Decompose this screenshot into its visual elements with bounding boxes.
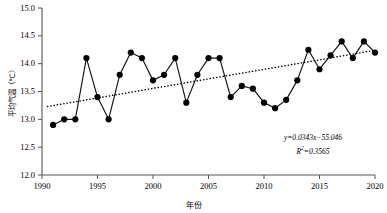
data-point-marker xyxy=(139,55,145,61)
data-point-marker xyxy=(72,116,78,122)
data-point-marker xyxy=(239,83,245,89)
data-point-marker xyxy=(128,49,134,55)
data-point-marker xyxy=(283,97,289,103)
data-point-marker xyxy=(217,55,223,61)
data-point-marker xyxy=(194,72,200,78)
data-point-marker xyxy=(272,105,278,111)
y-axis-title: 平均气温（℃） xyxy=(6,50,17,134)
trendline-equation-annotation: y=0.0343x−55.046 R2=0.3565 xyxy=(258,133,368,157)
data-point-marker xyxy=(183,100,189,106)
data-point-marker xyxy=(372,49,378,55)
x-axis-tick-label: 1990 xyxy=(22,182,62,191)
r-squared-text: R2=0.3565 xyxy=(258,143,368,157)
data-point-marker xyxy=(361,38,367,44)
temperature-trend-chart: 12.012.513.013.514.014.515.0 19901995200… xyxy=(0,0,387,213)
regression-equation-text: y=0.0343x−55.046 xyxy=(258,133,368,143)
x-axis-tick-label: 2010 xyxy=(244,182,284,191)
data-point-marker xyxy=(50,122,56,128)
data-point-marker xyxy=(350,55,356,61)
data-point-marker xyxy=(83,55,89,61)
data-point-marker xyxy=(305,47,311,53)
y-axis-tick-label: 12.0 xyxy=(0,171,35,180)
data-point-marker xyxy=(294,77,300,83)
data-point-marker xyxy=(339,38,345,44)
data-point-marker xyxy=(228,94,234,100)
data-point-marker xyxy=(94,94,100,100)
series-line xyxy=(53,41,375,125)
y-axis-tick-label: 14.5 xyxy=(0,31,35,40)
data-point-marker xyxy=(61,116,67,122)
data-point-marker xyxy=(328,52,334,58)
x-axis-tick-label: 2015 xyxy=(300,182,340,191)
y-axis-tick-label: 12.5 xyxy=(0,143,35,152)
data-point-marker xyxy=(205,55,211,61)
y-axis-tick-label: 15.0 xyxy=(0,4,35,13)
x-axis-tick-label: 2000 xyxy=(133,182,173,191)
y-axis-ticks xyxy=(38,8,42,175)
data-point-marker xyxy=(106,116,112,122)
data-point-marker xyxy=(316,66,322,72)
x-axis-ticks xyxy=(42,175,375,179)
data-point-marker xyxy=(161,72,167,78)
data-point-marker xyxy=(172,55,178,61)
x-axis-title: 年份 xyxy=(0,199,387,210)
data-point-marker xyxy=(250,86,256,92)
series-markers xyxy=(50,38,378,128)
x-axis-tick-label: 2020 xyxy=(355,182,387,191)
x-axis-tick-label: 2005 xyxy=(189,182,229,191)
data-point-marker xyxy=(150,77,156,83)
data-point-marker xyxy=(261,100,267,106)
data-point-marker xyxy=(117,72,123,78)
x-axis-tick-label: 1995 xyxy=(78,182,118,191)
